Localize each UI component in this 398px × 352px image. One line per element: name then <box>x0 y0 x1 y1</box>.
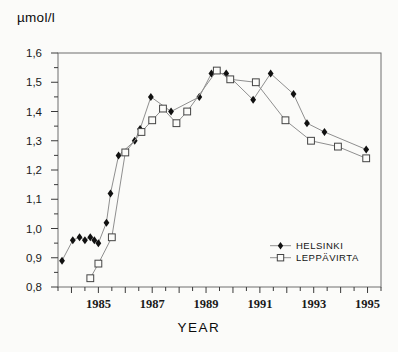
series-leppavirta-marker <box>308 137 315 144</box>
series-leppavirta-marker <box>363 155 370 162</box>
y-axis-tick-label: 0,8 <box>26 281 42 293</box>
y-axis-tick-label: 1,6 <box>26 47 42 59</box>
series-helsinki-marker <box>77 233 83 241</box>
series-leppavirta-marker <box>138 129 145 136</box>
x-axis-year-label: 1993 <box>301 297 326 311</box>
series-leppavirta-marker <box>227 76 234 83</box>
series-helsinki-marker <box>104 219 110 227</box>
legend-item-helsinki: HELSINKI <box>270 240 343 251</box>
series-helsinki-marker <box>304 119 310 127</box>
series-leppavirta-marker <box>213 67 220 74</box>
series-leppavirta-marker <box>122 149 129 156</box>
series-leppavirta-marker <box>95 260 102 267</box>
series-helsinki-marker <box>148 93 154 101</box>
x-axis-labels: 198519871989199119931995 <box>86 297 380 311</box>
line-chart-figure: µmol/l 1,61,51,41,31,21,11,00,90,8 19851… <box>0 0 398 352</box>
series-leppavirta-marker <box>184 108 191 115</box>
series-helsinki-marker <box>59 257 65 265</box>
series-leppavirta-marker <box>87 275 94 282</box>
series-leppavirta-marker <box>173 120 180 127</box>
series-helsinki-marker <box>322 128 328 136</box>
x-axis-title: YEAR <box>0 320 398 335</box>
y-axis-ticks <box>51 53 58 287</box>
series-leppavirta-marker <box>108 234 115 241</box>
x-axis-year-label: 1989 <box>194 297 219 311</box>
series-leppavirta-marker <box>282 117 289 124</box>
y-axis-tick-label: 0,9 <box>26 252 42 264</box>
legend-item-leppavirta: LEPPÄVIRTA <box>270 252 359 263</box>
y-axis-tick-label: 1,2 <box>26 164 42 176</box>
x-axis-year-label: 1987 <box>140 297 165 311</box>
chart-plot-area: 1,61,51,41,31,21,11,00,90,8 198519871989… <box>0 0 398 352</box>
y-axis-tick-label: 1,3 <box>26 135 42 147</box>
legend-label: HELSINKI <box>296 240 343 251</box>
series-helsinki-marker <box>363 146 369 154</box>
filled-diamond-icon <box>278 242 283 250</box>
y-axis-tick-label: 1,0 <box>26 223 42 235</box>
series-leppavirta-marker <box>149 117 156 124</box>
legend-label: LEPPÄVIRTA <box>296 252 359 263</box>
series-helsinki <box>59 69 369 264</box>
series-helsinki-marker <box>291 90 297 98</box>
x-axis-ticks <box>58 287 381 293</box>
y-axis-labels: 1,61,51,41,31,21,11,00,90,8 <box>26 47 43 293</box>
series-helsinki-marker <box>82 236 88 244</box>
x-axis-year-label: 1995 <box>355 297 380 311</box>
x-axis-year-label: 1991 <box>247 297 272 311</box>
series-leppavirta-marker <box>335 143 342 150</box>
x-axis-year-label: 1985 <box>86 297 111 311</box>
y-axis-tick-label: 1,4 <box>26 106 43 118</box>
y-axis-tick-label: 1,1 <box>26 193 42 205</box>
y-axis-tick-label: 1,5 <box>26 76 42 88</box>
series-helsinki-marker <box>116 151 122 159</box>
open-square-icon <box>277 255 283 261</box>
series-helsinki-line <box>62 74 366 261</box>
series-helsinki-marker <box>168 108 174 116</box>
y-axis-unit-label: µmol/l <box>17 10 55 25</box>
series-leppavirta-marker <box>252 79 259 86</box>
series-leppavirta-marker <box>160 105 167 112</box>
series-helsinki-marker <box>108 189 114 197</box>
chart-legend: HELSINKILEPPÄVIRTA <box>270 240 359 263</box>
